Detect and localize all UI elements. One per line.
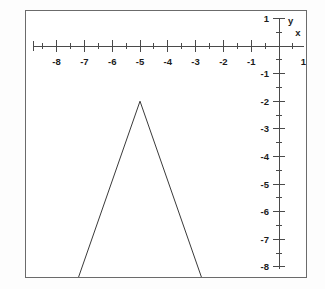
x-tick-label--1: -1 [247, 56, 256, 67]
x-tick-label--4: -4 [164, 56, 173, 67]
y-tick-label--4: -4 [261, 151, 270, 162]
x-tick-label--2: -2 [219, 56, 227, 67]
y-tick-label--5: -5 [261, 179, 270, 190]
x-tick-label--6: -6 [108, 56, 116, 67]
x-axis-label: x [295, 27, 301, 38]
x-tick-label--7: -7 [80, 56, 88, 67]
coordinate-plot: -8 -7 -6 -5 -4 -3 -2 -1 1 x [26, 11, 306, 277]
x-tick-label-1: 1 [301, 56, 306, 67]
x-tick-label--8: -8 [52, 56, 60, 67]
y-tick-label--3: -3 [261, 123, 269, 134]
y-tick-label-1: 1 [264, 13, 270, 24]
y-axis-label: y [288, 15, 294, 26]
y-tick-label--7: -7 [261, 234, 269, 245]
y-tick-label--2: -2 [261, 96, 269, 107]
x-tick-label--5: -5 [136, 56, 145, 67]
function-curve [79, 101, 202, 277]
y-tick-label--1: -1 [261, 68, 270, 79]
y-tick-label--6: -6 [261, 206, 269, 217]
y-tick-label--8: -8 [261, 261, 269, 272]
graph-figure: -8 -7 -6 -5 -4 -3 -2 -1 1 x [0, 0, 325, 289]
x-tick-label--3: -3 [191, 56, 199, 67]
plot-frame: -8 -7 -6 -5 -4 -3 -2 -1 1 x [25, 10, 307, 278]
